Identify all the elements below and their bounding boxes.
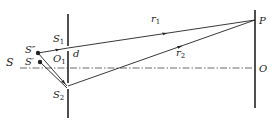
label-r2: r2 [176, 47, 185, 60]
label-r1: r1 [151, 13, 160, 26]
label-s1: S1 [53, 33, 64, 46]
label-d: d [73, 48, 79, 59]
label-s2: S2 [53, 89, 64, 102]
double-slit-diagram: S S″ S′ S1 O1 d S2 r1 r2 P O [0, 0, 275, 124]
label-p: P [258, 15, 266, 26]
label-o: O [259, 63, 267, 74]
ray-r1 [68, 20, 255, 48]
ray-r2 [68, 20, 255, 86]
label-s: S [6, 56, 14, 69]
label-s-prime: S′ [25, 56, 35, 67]
label-o1: O1 [53, 53, 66, 66]
label-s-double-prime: S″ [25, 44, 36, 55]
